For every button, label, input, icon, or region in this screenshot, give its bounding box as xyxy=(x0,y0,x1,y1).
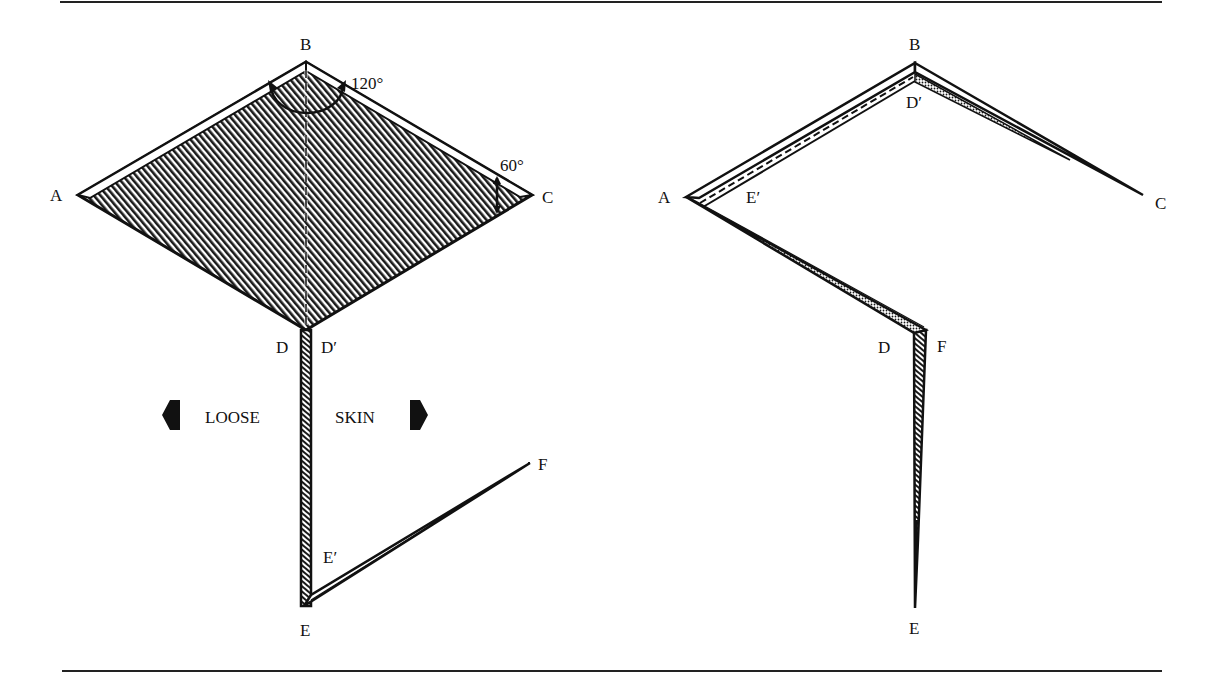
label-right-e-prime: E′ xyxy=(746,188,760,207)
skin-strip-de xyxy=(301,330,311,606)
band-ab xyxy=(686,63,915,198)
diagram-canvas: B A C D D′ E′ E F 120° 60° LOOSE SKIN B … xyxy=(0,0,1205,685)
label-left-e-prime: E′ xyxy=(323,548,337,567)
label-left-b: B xyxy=(300,35,311,54)
band-ad xyxy=(686,197,926,334)
band-bc xyxy=(915,63,1143,195)
label-right-d: D xyxy=(878,338,890,357)
arrow-left-icon xyxy=(162,400,180,430)
band-ab-inner xyxy=(703,81,915,207)
label-right-d-prime: D′ xyxy=(906,93,922,112)
label-left-d: D xyxy=(276,338,288,357)
flap-inner-line xyxy=(311,468,522,600)
label-right-e: E xyxy=(909,619,919,638)
label-loose: LOOSE xyxy=(205,408,260,427)
label-right-c: C xyxy=(1155,194,1166,213)
label-right-a: A xyxy=(658,188,671,207)
label-right-f: F xyxy=(937,337,946,356)
label-right-b: B xyxy=(909,35,920,54)
band-ab-dashes xyxy=(700,77,913,203)
label-skin: SKIN xyxy=(335,408,375,427)
label-left-c: C xyxy=(542,188,553,207)
band-ad-outer xyxy=(690,198,924,327)
right-figure: B D′ A E′ C D F E xyxy=(658,35,1166,638)
label-angle-60: 60° xyxy=(500,156,524,175)
label-left-a: A xyxy=(50,186,63,205)
label-left-e: E xyxy=(300,621,310,640)
label-left-f: F xyxy=(538,455,547,474)
label-angle-120: 120° xyxy=(351,74,383,93)
arrow-right-icon xyxy=(410,400,428,430)
left-figure: B A C D D′ E′ E F 120° 60° LOOSE SKIN xyxy=(50,35,553,640)
band-bc-dotted xyxy=(915,74,1070,160)
label-left-d-prime: D′ xyxy=(321,338,337,357)
